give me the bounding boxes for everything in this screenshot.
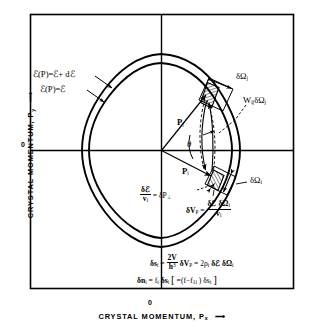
delta-p-perp-leader [197, 186, 209, 190]
vector-label-p-i: Pi [182, 167, 189, 177]
w-ij-delta-omega-j-label: WijδΩj [243, 96, 266, 106]
energy-contour-inner-label: ℰ(P)=ℰ [40, 85, 65, 94]
dvp-leader [213, 190, 214, 196]
delta-p-perp-equation: δℰ vi = δP⊥ [140, 186, 171, 204]
energy-contour-outer-label: ℰ(P)=ℰ+ dℰ [33, 70, 75, 79]
scatter-arrow-up [209, 103, 213, 171]
origin-label-y: 0 [21, 141, 25, 148]
angle-label-theta: θ [187, 140, 191, 149]
delta-omega-j-label: δΩj [236, 72, 248, 82]
origin-label-x: 0 [148, 299, 152, 306]
x-axis-label: CRYSTAL MOMENTUM, Px ⟶ [62, 312, 262, 321]
equation-delta-n-i: δni = fi δsi [ =(f−f1i ) δsi ] [137, 274, 217, 286]
delta-omega-i-label: δΩi [250, 176, 262, 186]
figure-root: CRYSTAL MOMENTUM, Py ⟶ CRYSTAL MOMENTUM,… [0, 0, 312, 327]
vector-label-p-j: Pj [177, 118, 184, 128]
w-ij-leader [219, 105, 246, 133]
inner-contour-leader [87, 90, 104, 102]
delta-omega-i-leader [236, 182, 247, 184]
equation-delta-s-i: δsi = 2V h3 δVP = 2ρi δℰ δΩi [150, 254, 234, 271]
scatter-arrow-down [202, 101, 207, 170]
delta-vp-equation: δVP = δℰ δΩi vi [186, 200, 231, 219]
y-axis-label: CRYSTAL MOMENTUM, Py ⟶ [26, 70, 35, 240]
